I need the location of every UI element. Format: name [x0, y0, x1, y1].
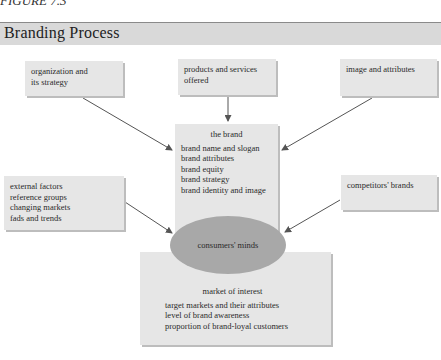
consumers-minds-label: consumers' minds: [170, 240, 286, 250]
ellipse-layer: [0, 0, 441, 360]
